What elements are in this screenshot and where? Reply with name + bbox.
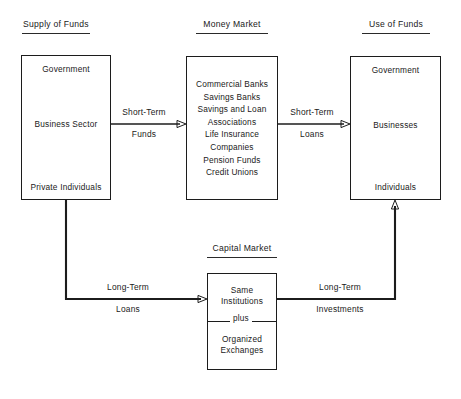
flow-of-funds-diagram: Supply of Funds Money Market Use of Fund… bbox=[0, 0, 461, 399]
arrow-supply-to-capital-market bbox=[66, 200, 207, 303]
connector-arrows bbox=[0, 0, 461, 399]
arrow-supply-to-money-market bbox=[111, 120, 186, 127]
arrow-money-market-to-use-of-funds bbox=[278, 120, 350, 127]
arrow-capital-market-to-use-of-funds bbox=[277, 200, 399, 299]
